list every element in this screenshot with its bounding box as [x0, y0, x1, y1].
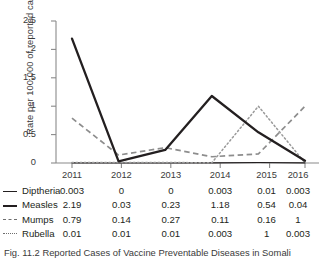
x-tick-label: 2016 [275, 170, 321, 180]
figure-caption: Fig. 11.2 Reported Cases of Vaccine Prev… [4, 247, 321, 258]
x-tick-label: 2012 [98, 170, 144, 180]
x-tick-label: 2011 [49, 170, 95, 180]
table-cell: 1 [275, 214, 321, 225]
table-cell: 0.01 [49, 228, 95, 239]
table-cell: 0.04 [275, 199, 321, 210]
y-tick-label: 2 [10, 43, 36, 53]
table-row: Diptheria 0.003 0 0 0.003 0.01 0.003 [0, 184, 321, 198]
x-tick-label: 2013 [148, 170, 194, 180]
x-tick-label: 2014 [197, 170, 243, 180]
table-cell: 0.003 [197, 228, 243, 239]
table-cell: 0.003 [197, 185, 243, 196]
y-tick-label: 0 [10, 157, 36, 167]
line-chart-svg [36, 14, 321, 170]
data-table: Diptheria 0.003 0 0 0.003 0.01 0.003 Mea… [0, 184, 321, 241]
table-cell: 0.01 [98, 228, 144, 239]
table-cell: 0.01 [148, 228, 194, 239]
table-cell: 0.14 [98, 214, 144, 225]
y-tick-label: 1.5 [10, 72, 36, 82]
table-cell: 0.003 [49, 185, 95, 196]
legend-line-icon-diptheria [3, 191, 17, 192]
table-cell: 0.27 [148, 214, 194, 225]
series-line-rubella [72, 106, 305, 163]
table-cell: 1.18 [197, 199, 243, 210]
table-row: Rubella 0.01 0.01 0.01 0.003 1 0.003 [0, 227, 321, 241]
table-cell: 0 [148, 185, 194, 196]
table-cell: 0.23 [148, 199, 194, 210]
table-cell: 0.11 [197, 214, 243, 225]
table-row: Measles 2.19 0.03 0.23 1.18 0.54 0.04 [0, 198, 321, 212]
y-tick-label: 0.5 [10, 129, 36, 139]
table-row: Mumps 0.79 0.14 0.27 0.11 0.16 1 [0, 213, 321, 227]
y-tick-label: 1 [10, 100, 36, 110]
table-cell: 0.003 [275, 228, 321, 239]
legend-line-icon-rubella [3, 233, 17, 234]
legend-line-icon-measles [3, 205, 17, 207]
table-cell: 0.03 [98, 199, 144, 210]
table-cell: 2.19 [49, 199, 95, 210]
y-tick-marks [51, 21, 56, 163]
table-cell: 0.003 [275, 185, 321, 196]
y-tick-label: 2.5 [10, 15, 36, 25]
table-cell: 0.79 [49, 214, 95, 225]
legend-line-icon-mumps [3, 219, 17, 220]
plot-area [36, 14, 321, 170]
x-tick-marks [72, 163, 305, 168]
table-cell: 0 [98, 185, 144, 196]
